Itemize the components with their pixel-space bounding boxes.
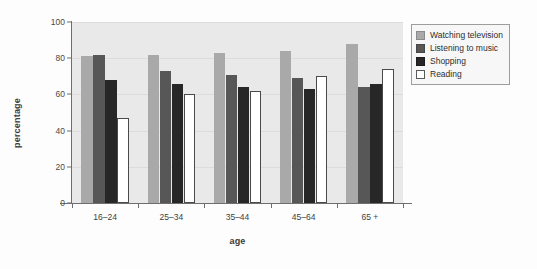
y-tick-label: 40 <box>30 126 65 136</box>
bar <box>214 53 226 203</box>
bar <box>358 87 370 203</box>
x-tick-label: 35–44 <box>226 212 250 222</box>
bar <box>238 87 250 203</box>
bar-group <box>271 22 337 203</box>
x-tick-label: 16–24 <box>93 212 117 222</box>
bar <box>172 84 184 203</box>
y-axis-title: percentage <box>12 78 22 168</box>
bar-group <box>204 22 270 203</box>
legend-label: Shopping <box>430 56 466 66</box>
bar <box>250 91 262 203</box>
bar <box>105 80 117 203</box>
y-tick-label: 20 <box>30 162 65 172</box>
legend-item: Watching television <box>416 29 503 41</box>
legend-label: Reading <box>430 69 462 79</box>
x-tick-mark <box>403 203 404 208</box>
x-axis-line <box>60 203 412 204</box>
x-tick-mark <box>204 203 205 208</box>
bar <box>160 71 172 203</box>
x-tick-label: 65 + <box>362 212 379 222</box>
bar <box>346 44 358 203</box>
legend-swatch <box>416 31 425 40</box>
legend-label: Listening to music <box>430 43 498 53</box>
legend-swatch <box>416 70 425 79</box>
y-tick-mark <box>67 166 72 167</box>
legend-item: Listening to music <box>416 42 503 54</box>
y-tick-mark <box>67 58 72 59</box>
bar <box>316 76 328 203</box>
bar <box>117 118 129 203</box>
bar-group <box>337 22 403 203</box>
y-tick-mark <box>67 22 72 23</box>
y-tick-label: 100 <box>30 17 65 27</box>
y-tick-label: 0 <box>30 198 65 208</box>
bar <box>184 94 196 203</box>
x-tick-mark <box>72 203 73 208</box>
plot-area <box>72 22 403 203</box>
bar <box>148 55 160 203</box>
x-tick-mark <box>337 203 338 208</box>
x-tick-label: 25–34 <box>159 212 183 222</box>
x-tick-mark <box>138 203 139 208</box>
legend-item: Reading <box>416 68 503 80</box>
chart-figure: percentage 020406080100 16–2425–3435–444… <box>0 0 537 269</box>
chart-legend: Watching televisionListening to musicSho… <box>411 24 510 85</box>
y-tick-label: 60 <box>30 89 65 99</box>
bar-group <box>138 22 204 203</box>
bar <box>370 84 382 203</box>
legend-item: Shopping <box>416 55 503 67</box>
bar <box>304 89 316 203</box>
x-axis-title: age <box>0 236 475 246</box>
legend-swatch <box>416 57 425 66</box>
y-tick-label: 80 <box>30 53 65 63</box>
bar-group <box>72 22 138 203</box>
x-tick-label: 45–64 <box>292 212 316 222</box>
bar <box>280 51 292 203</box>
bar <box>382 69 394 203</box>
bar <box>226 75 238 204</box>
y-tick-mark <box>67 94 72 95</box>
legend-swatch <box>416 44 425 53</box>
legend-label: Watching television <box>430 30 503 40</box>
x-tick-mark <box>271 203 272 208</box>
y-tick-mark <box>67 130 72 131</box>
bar <box>292 78 304 203</box>
bar <box>81 56 93 203</box>
bar <box>93 55 105 203</box>
